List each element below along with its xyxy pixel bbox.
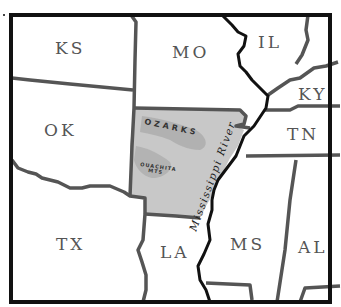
arkansas-region-map: KS MO IL KY OK TN TX LA MS AL OZARKS OUA… xyxy=(0,0,341,307)
state-label-ms: MS xyxy=(230,234,265,254)
state-label-tn: TN xyxy=(287,124,319,144)
state-label-il: IL xyxy=(258,32,282,52)
state-label-ky: KY xyxy=(298,84,327,104)
state-label-mo: MO xyxy=(172,42,209,62)
state-label-ks: KS xyxy=(55,38,85,58)
state-label-la: LA xyxy=(160,242,190,262)
state-label-tx: TX xyxy=(56,234,85,254)
state-label-al: AL xyxy=(297,237,328,257)
corner-mark xyxy=(3,14,5,16)
state-label-ok: OK xyxy=(44,120,77,140)
